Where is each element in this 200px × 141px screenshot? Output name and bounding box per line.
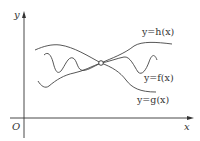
curve-h: [35, 42, 172, 63]
label-h: y=h(x): [141, 26, 174, 37]
function-graph: y O x y=h(x) y=f(x) y=g(x): [0, 0, 200, 141]
x-axis-label: x: [184, 121, 190, 132]
x-axis-arrow-icon: [187, 116, 194, 120]
curve-g: [38, 63, 156, 92]
label-g: y=g(x): [136, 94, 169, 105]
y-axis-arrow-icon: [22, 11, 26, 18]
label-f: y=f(x): [143, 72, 174, 83]
origin-label: O: [12, 121, 20, 132]
y-axis-label: y: [13, 9, 20, 20]
intersection-point-icon: [99, 61, 104, 66]
